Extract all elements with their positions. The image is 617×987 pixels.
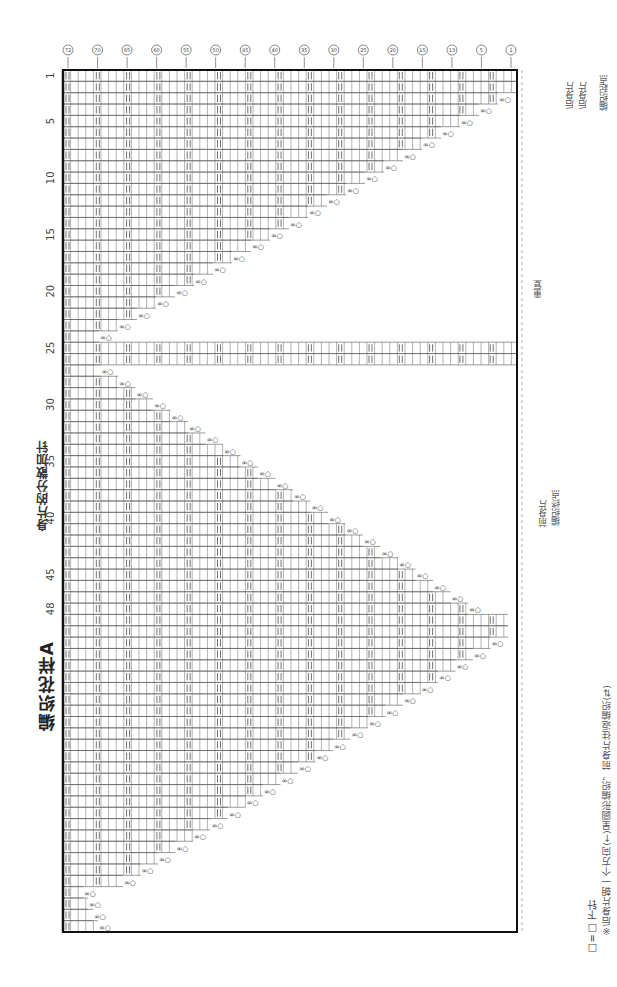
svg-text:∞○: ∞○: [119, 380, 131, 388]
svg-text:1: 1: [509, 47, 512, 53]
knitting-chart: ∞○∞○∞○∞○∞○∞○∞○∞○∞○∞○∞○∞○∞○∞○∞○∞○∞○∞○∞○∞○…: [0, 0, 617, 987]
stitch-marks: ∞○∞○∞○∞○∞○∞○∞○∞○∞○∞○∞○∞○∞○∞○∞○∞○∞○∞○∞○∞○…: [66, 72, 511, 932]
svg-text:∞○: ∞○: [312, 504, 324, 512]
svg-text:∞○: ∞○: [189, 425, 201, 433]
svg-text:∞○: ∞○: [469, 606, 481, 614]
page-title: 编织花样A: [34, 640, 59, 731]
svg-text:20: 20: [45, 285, 56, 298]
svg-text:∞○: ∞○: [439, 674, 451, 682]
svg-text:∞○: ∞○: [364, 538, 376, 546]
svg-text:∞○: ∞○: [259, 470, 271, 478]
svg-text:∞○: ∞○: [456, 663, 468, 671]
svg-text:5: 5: [480, 47, 483, 53]
svg-text:∞○: ∞○: [141, 867, 153, 875]
legend-knit-symbol: □=□ 下针: [585, 900, 600, 954]
svg-text:∞○: ∞○: [94, 913, 106, 921]
svg-text:13: 13: [449, 47, 455, 53]
svg-text:30: 30: [45, 398, 56, 411]
svg-text:20: 20: [390, 47, 396, 53]
svg-text:25: 25: [360, 47, 366, 53]
svg-text:70: 70: [94, 47, 100, 53]
svg-text:∞○: ∞○: [157, 300, 169, 308]
svg-text:∞○: ∞○: [264, 788, 276, 796]
svg-text:∞○: ∞○: [99, 924, 111, 932]
svg-text:72: 72: [65, 47, 71, 53]
svg-text:∞○: ∞○: [224, 448, 236, 456]
svg-text:45: 45: [45, 568, 56, 581]
svg-text:∞○: ∞○: [89, 901, 101, 909]
svg-text:∞○: ∞○: [229, 811, 241, 819]
svg-text:∞○: ∞○: [404, 153, 416, 161]
svg-text:∞○: ∞○: [195, 278, 207, 286]
svg-text:∞○: ∞○: [499, 96, 511, 104]
svg-text:∞○: ∞○: [417, 572, 429, 580]
svg-text:∞○: ∞○: [242, 459, 254, 467]
svg-text:∞○: ∞○: [309, 209, 321, 217]
svg-text:∞○: ∞○: [442, 130, 454, 138]
svg-text:∞○: ∞○: [290, 221, 302, 229]
svg-text:∞○: ∞○: [137, 391, 149, 399]
svg-text:∞○: ∞○: [329, 516, 341, 524]
svg-text:10: 10: [45, 171, 56, 184]
svg-text:∞○: ∞○: [194, 833, 206, 841]
svg-text:∞○: ∞○: [172, 414, 184, 422]
svg-text:∞○: ∞○: [351, 731, 363, 739]
svg-text:45: 45: [242, 47, 248, 53]
svg-text:∞○: ∞○: [434, 584, 446, 592]
svg-text:∞○: ∞○: [102, 368, 114, 376]
svg-text:∞○: ∞○: [299, 765, 311, 773]
svg-text:∞○: ∞○: [271, 232, 283, 240]
svg-text:∞○: ∞○: [246, 799, 258, 807]
svg-text:∞○: ∞○: [138, 312, 150, 320]
svg-text:∞○: ∞○: [385, 164, 397, 172]
svg-text:35: 35: [301, 47, 307, 53]
svg-text:∞○: ∞○: [119, 323, 131, 331]
svg-text:∞○: ∞○: [461, 119, 473, 127]
svg-text:∞○: ∞○: [281, 777, 293, 785]
svg-text:∞○: ∞○: [294, 493, 306, 501]
svg-text:∞○: ∞○: [369, 720, 381, 728]
legend-note: ※后身片朝一个方向(←)呈圆形编织，前身片往返编织(⇄): [600, 685, 614, 937]
svg-text:60: 60: [153, 47, 159, 53]
chart-subtitle: 身片的分散加针: [34, 440, 51, 531]
svg-text:∞○: ∞○: [386, 709, 398, 717]
svg-text:∞○: ∞○: [211, 822, 223, 830]
svg-text:30: 30: [331, 47, 337, 53]
svg-text:5: 5: [45, 118, 56, 124]
svg-text:∞○: ∞○: [452, 595, 464, 603]
svg-text:∞○: ∞○: [334, 743, 346, 751]
svg-text:∞○: ∞○: [421, 686, 433, 694]
svg-text:∞○: ∞○: [84, 890, 96, 898]
svg-text:∞○: ∞○: [347, 187, 359, 195]
svg-text:25: 25: [45, 342, 56, 355]
svg-text:∞○: ∞○: [252, 243, 264, 251]
svg-text:∞○: ∞○: [316, 754, 328, 762]
label-front-end: 前身片: [535, 500, 548, 527]
svg-text:15: 15: [45, 228, 56, 241]
label-repeat: 重复: [530, 280, 543, 298]
label-start: 编织起点: [596, 75, 609, 111]
svg-text:65: 65: [124, 47, 130, 53]
svg-text:∞○: ∞○: [404, 697, 416, 705]
svg-text:∞○: ∞○: [207, 436, 219, 444]
svg-text:15: 15: [419, 47, 425, 53]
svg-text:∞○: ∞○: [176, 845, 188, 853]
svg-text:40: 40: [272, 47, 278, 53]
svg-text:50: 50: [212, 47, 218, 53]
svg-text:∞○: ∞○: [347, 527, 359, 535]
svg-text:∞○: ∞○: [366, 175, 378, 183]
svg-text:∞○: ∞○: [491, 640, 503, 648]
svg-text:∞○: ∞○: [154, 402, 166, 410]
svg-text:55: 55: [183, 47, 189, 53]
svg-text:∞○: ∞○: [382, 550, 394, 558]
svg-text:∞○: ∞○: [480, 107, 492, 115]
svg-text:∞○: ∞○: [159, 856, 171, 864]
svg-text:∞○: ∞○: [214, 266, 226, 274]
svg-text:∞○: ∞○: [100, 334, 112, 342]
svg-text:48: 48: [45, 602, 56, 615]
svg-text:∞○: ∞○: [399, 561, 411, 569]
svg-text:1: 1: [45, 72, 56, 78]
svg-text:∞○: ∞○: [423, 141, 435, 149]
chart-grid: [63, 70, 522, 932]
label-back-bottom: 后身片: [575, 82, 588, 109]
